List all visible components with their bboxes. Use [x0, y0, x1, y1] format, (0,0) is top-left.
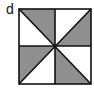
pinwheel-square-diagram — [0, 0, 94, 93]
outline-lines — [19, 9, 91, 84]
